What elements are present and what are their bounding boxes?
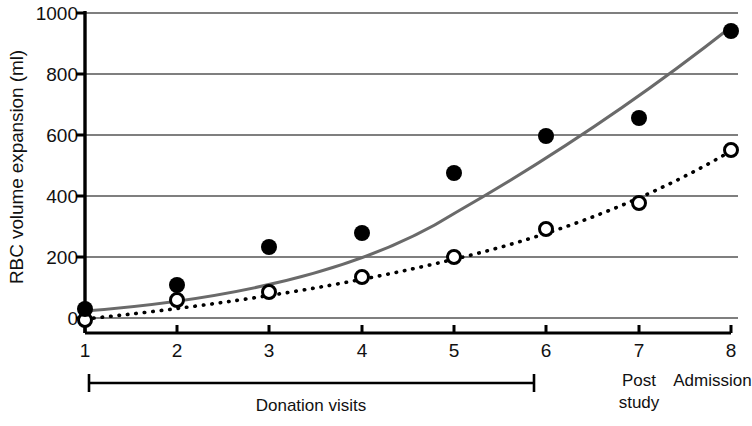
data-point-filled-8 [723, 23, 739, 39]
data-point-filled-6 [538, 128, 554, 144]
chart-canvas [0, 0, 752, 426]
series-open-markers [79, 144, 738, 327]
data-point-open-5 [448, 251, 461, 264]
donation-visits-bracket [88, 374, 535, 392]
data-point-filled-1 [77, 301, 93, 317]
data-point-open-8 [725, 144, 738, 157]
series-filled-trend-line [85, 27, 731, 311]
data-point-filled-7 [631, 110, 647, 126]
series-filled-markers [77, 23, 739, 317]
gridlines [85, 13, 738, 318]
data-point-open-2 [171, 294, 184, 307]
data-point-open-6 [540, 223, 553, 236]
x-axis [85, 325, 731, 333]
data-point-filled-2 [169, 277, 185, 293]
data-point-filled-5 [446, 165, 462, 181]
data-point-open-7 [633, 197, 646, 210]
data-point-filled-3 [261, 239, 277, 255]
data-point-open-4 [356, 271, 369, 284]
data-point-open-3 [263, 286, 276, 299]
chart-figure: RBC volume expansion (ml) 1000 800 600 4… [0, 0, 752, 426]
data-point-filled-4 [354, 225, 370, 241]
y-axis [76, 11, 85, 333]
